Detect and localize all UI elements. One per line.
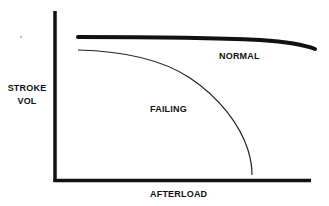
y-axis-label: STROKE VOL [2,82,52,108]
y-axis-label-line2: VOL [2,95,52,108]
x-axis-label: AFTERLOAD [150,189,207,199]
normal-curve [78,37,315,49]
failing-curve-label: FAILING [150,104,187,114]
normal-curve-label: NORMAL [219,51,260,61]
y-axis-label-line1: STROKE [2,82,52,95]
scan-artifact [20,36,21,37]
stroke-volume-afterload-diagram: STROKE VOL NORMAL FAILING AFTERLOAD [0,0,329,206]
